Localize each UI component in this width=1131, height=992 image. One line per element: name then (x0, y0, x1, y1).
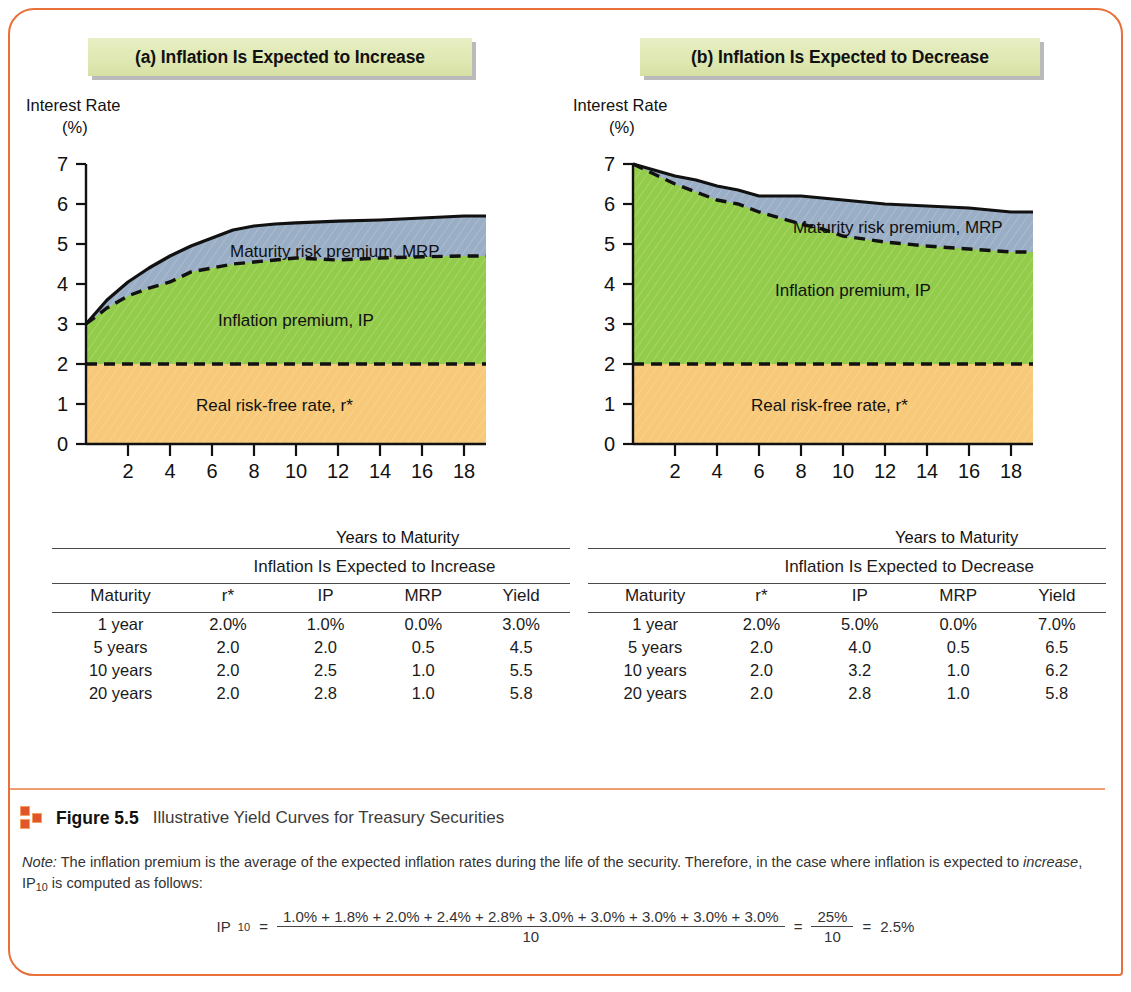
formula-result: 2.5% (880, 918, 914, 935)
table-b-r0-maturity: 1 year (588, 612, 712, 636)
formula-denominator-2: 10 (811, 926, 853, 945)
panel-b-x-ticks (675, 444, 1011, 456)
table-b-r3-mrp: 1.0 (909, 682, 1008, 705)
panel-a-svg: 7 6 5 4 3 2 1 0 2 (18, 144, 538, 484)
table-a-col-mrp: MRP (374, 583, 472, 608)
table-b-r1-ip: 4.0 (811, 636, 909, 659)
formula-ip10: IP10 = 1.0% + 1.8% + 2.0% + 2.4% + 2.8% … (0, 908, 1131, 945)
table-b-r0-rstar: 2.0% (712, 612, 810, 636)
note-emphasis: increase (1023, 854, 1078, 870)
svg-text:3: 3 (57, 313, 68, 335)
svg-text:16: 16 (958, 460, 980, 482)
panel-a-y-axis-unit: (%) (62, 118, 88, 137)
formula-equals-3: = (860, 918, 873, 935)
table-b-r0-ip: 5.0% (811, 612, 909, 636)
table-a-r3-ip: 2.8 (277, 682, 375, 705)
panel-b-ip-label: Inflation premium, IP (775, 281, 931, 300)
panel-b-rstar-label: Real risk-free rate, r* (751, 396, 908, 415)
caption-divider (10, 788, 1105, 790)
formula-lhs-subscript: 10 (238, 921, 250, 933)
panel-a-plot: 7 6 5 4 3 2 1 0 2 (18, 144, 538, 488)
table-a-r1-yield: 4.5 (472, 636, 570, 659)
svg-text:2: 2 (669, 460, 680, 482)
panel-b-y-tick-labels: 7 6 5 4 3 2 1 0 (604, 153, 615, 455)
table-b-r0-yield: 7.0% (1008, 612, 1106, 636)
table-row: 5 years 2.0 2.0 0.5 4.5 (52, 636, 570, 659)
svg-text:0: 0 (57, 433, 68, 455)
panel-a-y-tick-labels: 7 6 5 4 3 2 1 0 (57, 153, 68, 455)
formula-main-fraction: 1.0% + 1.8% + 2.0% + 2.4% + 2.8% + 3.0% … (277, 908, 785, 945)
svg-text:18: 18 (453, 460, 475, 482)
svg-text:2: 2 (57, 353, 68, 375)
table-a-r2-mrp: 1.0 (374, 659, 472, 682)
table-a-r0-yield: 3.0% (472, 612, 570, 636)
table-b-r3-ip: 2.8 (811, 682, 909, 705)
svg-text:1: 1 (57, 393, 68, 415)
formula-lhs: IP (217, 918, 231, 935)
table-b-col-mrp: MRP (909, 583, 1008, 608)
table-b-empty-corner (588, 555, 712, 579)
panel-a-banner: (a) Inflation Is Expected to Increase (88, 38, 472, 76)
svg-text:6: 6 (604, 193, 615, 215)
svg-text:4: 4 (164, 460, 175, 482)
svg-text:10: 10 (285, 460, 307, 482)
figure-number-label: Figure 5.5 (56, 808, 139, 829)
table-b-r2-rstar: 2.0 (712, 659, 810, 682)
table-b-r1-mrp: 0.5 (909, 636, 1008, 659)
svg-text:7: 7 (57, 153, 68, 175)
table-row: 20 years 2.0 2.8 1.0 5.8 (52, 682, 570, 705)
panel-b-y-axis-title: Interest Rate (573, 96, 667, 115)
svg-text:7: 7 (604, 153, 615, 175)
formula-equals-2: = (792, 918, 805, 935)
svg-text:16: 16 (411, 460, 433, 482)
svg-text:6: 6 (206, 460, 217, 482)
panel-a-y-ticks (76, 164, 86, 444)
table-a-r0-rstar: 2.0% (179, 612, 277, 636)
note-body-3: is computed as follows: (48, 875, 203, 891)
svg-text:5: 5 (604, 233, 615, 255)
table-a-col-maturity: Maturity (52, 583, 179, 608)
figure-title-label: Illustrative Yield Curves for Treasury S… (153, 808, 504, 828)
panel-a-y-axis-title: Interest Rate (26, 96, 120, 115)
panel-b-banner: (b) Inflation Is Expected to Decrease (640, 38, 1040, 76)
table-b-r0-mrp: 0.0% (909, 612, 1008, 636)
svg-text:6: 6 (57, 193, 68, 215)
data-table-increase: Inflation Is Expected to Increase Maturi… (52, 548, 570, 705)
svg-text:3: 3 (604, 313, 615, 335)
table-a-r2-ip: 2.5 (277, 659, 375, 682)
table-b-r2-ip: 3.2 (811, 659, 909, 682)
figure-marker-icon (20, 806, 42, 830)
panel-b-mrp-label: Maturity risk premium, MRP (793, 218, 1003, 237)
table-a-col-ip: IP (277, 583, 375, 608)
svg-text:8: 8 (795, 460, 806, 482)
panel-b-y-ticks (623, 164, 633, 444)
note-body-1: The inflation premium is the average of … (57, 854, 1023, 870)
figure-caption: Figure 5.5 Illustrative Yield Curves for… (20, 806, 504, 830)
panel-a-rstar-label: Real risk-free rate, r* (196, 396, 353, 415)
table-b-col-ip: IP (811, 583, 909, 608)
svg-text:8: 8 (248, 460, 259, 482)
svg-text:12: 12 (874, 460, 896, 482)
note-subscript: 10 (36, 881, 48, 893)
table-b-r2-maturity: 10 years (588, 659, 712, 682)
table-a-r3-yield: 5.8 (472, 682, 570, 705)
panel-b-y-axis-unit: (%) (609, 118, 635, 137)
table-row: 5 years 2.0 4.0 0.5 6.5 (588, 636, 1106, 659)
data-table-decrease: Inflation Is Expected to Decrease Maturi… (588, 548, 1106, 705)
table-b-r2-yield: 6.2 (1008, 659, 1106, 682)
formula-second-fraction: 25% 10 (811, 908, 853, 945)
table-b-col-yield: Yield (1008, 583, 1106, 608)
formula-numerator: 1.0% + 1.8% + 2.0% + 2.4% + 2.8% + 3.0% … (277, 908, 785, 926)
table-a-r3-rstar: 2.0 (179, 682, 277, 705)
formula-equals-1: = (257, 918, 270, 935)
panel-b-banner-label: (b) Inflation Is Expected to Decrease (691, 47, 989, 68)
table-b-r3-maturity: 20 years (588, 682, 712, 705)
note-lead: Note: (22, 854, 57, 870)
panel-a-x-axis-title: Years to Maturity (336, 528, 459, 547)
panel-b-x-tick-labels: 2 4 6 8 10 12 14 16 18 (669, 460, 1022, 482)
table-b-r1-yield: 6.5 (1008, 636, 1106, 659)
table-a-r1-rstar: 2.0 (179, 636, 277, 659)
figure-note: Note: The inflation premium is the avera… (22, 852, 1102, 895)
table-a-r0-mrp: 0.0% (374, 612, 472, 636)
table-a-r2-rstar: 2.0 (179, 659, 277, 682)
